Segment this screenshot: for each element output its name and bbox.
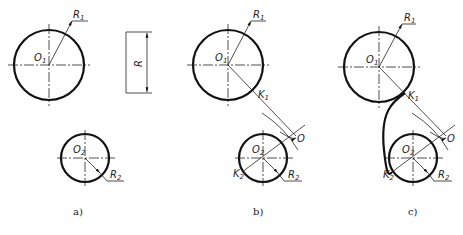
- dimension-box-r: R: [126, 32, 152, 93]
- label-r2-a: R2: [110, 169, 122, 182]
- arc-r-plus-r1-b: [262, 113, 298, 150]
- label-o1-c: O1: [366, 54, 378, 67]
- caption-a: a): [73, 206, 83, 217]
- label-r2-c: R2: [438, 169, 450, 182]
- label-o-center-c: O: [447, 133, 455, 144]
- label-o2-c: O2: [402, 144, 415, 157]
- label-r2-b: R2: [288, 169, 300, 182]
- label-r1-c: R1: [404, 12, 415, 25]
- label-o1-b: O1: [215, 52, 227, 65]
- label-o1-a: O1: [34, 52, 46, 65]
- label-r1-b: R1: [253, 9, 264, 22]
- tangent-arc-k1-k2: [383, 93, 405, 174]
- panel-a: R1 O1 R2 O2 R a): [8, 9, 152, 217]
- circle-o2-a: R2 O2: [57, 130, 124, 186]
- tangent-arc-construction-diagram: R1 O1 R2 O2 R a) R1: [0, 0, 463, 235]
- label-k1-c: K1: [408, 90, 419, 103]
- caption-c: c): [408, 206, 418, 217]
- label-r1-a: R1: [73, 9, 84, 22]
- label-o2-b: O2: [252, 144, 265, 157]
- label-r-dimension: R: [133, 60, 144, 67]
- circle-o1-c: R1 O1 K1: [338, 12, 420, 108]
- label-k1-b: K1: [258, 89, 269, 102]
- panel-c: R1 O1 K1 R2 O2 K2 O c): [338, 12, 455, 217]
- panel-b: R1 O1 K1 R2 O2 K2 O b): [187, 9, 305, 217]
- arc-construction-c: [412, 113, 448, 150]
- circle-o1-b: R1 O1 K1: [187, 9, 269, 106]
- circle-o1-a: R1 O1: [8, 9, 90, 106]
- caption-b: b): [253, 206, 263, 217]
- label-o-center-b: O: [297, 133, 305, 144]
- label-o2-a: O2: [73, 144, 86, 157]
